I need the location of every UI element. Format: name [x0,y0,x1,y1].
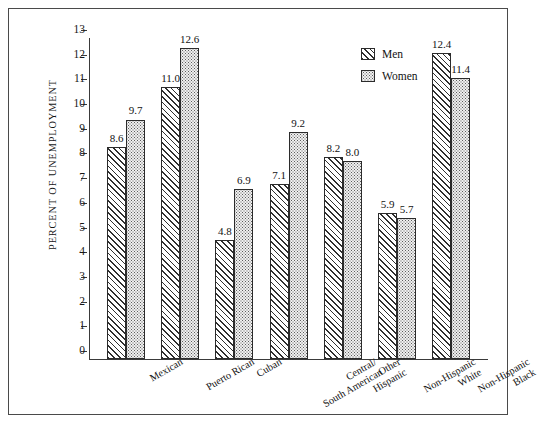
y-axis-tick-label: 10 [63,98,85,110]
y-axis-tick-label: 11 [63,73,85,85]
y-axis-tick-label: 9 [63,123,85,135]
bar-value-label: 5.7 [391,204,422,215]
x-axis-category-label: Non-HispanicWhite [422,356,484,405]
bar-men [432,53,451,359]
y-axis-title: PERCENT OF UNEMPLOYMENT [47,60,58,270]
y-axis-tick-label: 7 [63,172,85,184]
legend-swatch-men-icon [361,48,375,60]
legend-item-women: Women [361,67,451,84]
bar-value-label: 6.9 [228,175,259,186]
legend-item-men: Men [361,45,451,62]
bar-men [324,157,343,359]
bar-men [107,147,126,359]
bar-value-label: 12.6 [174,34,205,45]
bar-value-label: 8.0 [337,147,368,158]
y-axis-tick-label: 12 [63,49,85,61]
y-axis-tick-label: 0 [63,345,85,357]
bar-value-label: 9.7 [120,105,151,116]
bar-women [289,132,308,359]
y-axis-tick-label: 13 [63,24,85,36]
bar-women [126,120,145,360]
figure-frame: PERCENT OF UNEMPLOYMENT 1312111098765432… [8,8,508,415]
y-axis-tick-label: 3 [63,271,85,283]
legend-label-women: Women [382,70,417,82]
x-axis-category-label: Mexican [148,356,185,384]
y-axis-tick-labels: 131211109876543210 [61,9,85,428]
bar-women [180,48,199,359]
bar-women [451,78,470,359]
bar-men [215,240,234,359]
y-axis-tick-label: 8 [63,147,85,159]
x-axis-category-line: Mexican [148,356,185,384]
x-axis-category-label: Non-HispanicBlack [476,356,538,405]
x-axis-category-label: Puerto Rican [204,356,256,393]
y-axis-tick-label: 6 [63,197,85,209]
y-axis-tick-label: 5 [63,222,85,234]
bar-men [270,184,289,359]
bar-men [161,87,180,359]
legend-swatch-women-icon [361,70,375,82]
x-axis-line [89,359,488,360]
y-axis-tick-label: 1 [63,320,85,332]
legend-label-men: Men [382,48,403,60]
x-axis-category-line: Puerto Rican [204,356,256,393]
bar-women [397,218,416,359]
bar-value-label: 9.2 [283,118,314,129]
y-axis-tick-label: 4 [63,246,85,258]
bar-men [378,213,397,359]
bar-women [343,161,362,359]
chart-legend: Men Women [361,45,451,89]
y-axis-tick-label: 2 [63,296,85,308]
bar-women [234,189,253,359]
